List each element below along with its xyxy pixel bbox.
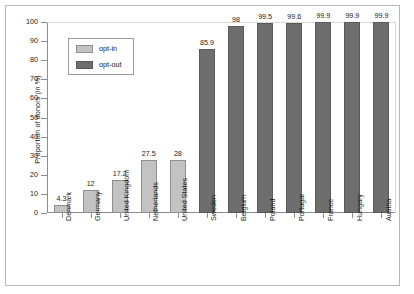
x-axis-label: United States <box>181 178 189 221</box>
x-axis-label: Germany <box>94 191 102 221</box>
x-axis-label: Hungary <box>356 194 364 221</box>
y-tick-label: 50 <box>0 114 38 121</box>
x-tick-mark <box>381 213 382 218</box>
x-tick-mark <box>294 213 295 218</box>
bar-value-label: 98 <box>220 16 252 24</box>
x-axis-label: Sweden <box>210 195 218 221</box>
plot-frame-right <box>395 22 396 213</box>
bar-austria <box>373 22 389 213</box>
bar-value-label: 28 <box>162 150 194 158</box>
legend-label-opt-out: opt-out <box>99 60 121 70</box>
y-tick-label: 20 <box>0 171 38 178</box>
bar-sweden <box>199 49 215 213</box>
y-tick-label: 80 <box>0 56 38 63</box>
bar-value-label: 12 <box>75 180 107 188</box>
bar-value-label: 99.9 <box>307 12 339 20</box>
x-tick-mark <box>120 213 121 218</box>
y-tick-label: 0 <box>0 209 38 216</box>
x-axis-label: Denmark <box>65 192 73 221</box>
bar-value-label: 99.9 <box>336 12 368 20</box>
legend-swatch-opt-out <box>76 61 93 69</box>
x-tick-mark <box>91 213 92 218</box>
x-tick-mark <box>207 213 208 218</box>
y-tick-label: 90 <box>0 37 38 44</box>
x-tick-mark <box>149 213 150 218</box>
legend-label-opt-in: opt-in <box>99 44 117 54</box>
chart-legend: opt-in opt-out <box>68 38 134 75</box>
x-axis-label: Austria <box>385 199 393 221</box>
x-axis-label: Portugal <box>298 194 306 221</box>
y-tick-label: 70 <box>0 75 38 82</box>
x-axis-label: Poland <box>269 199 277 221</box>
bar-chart-figure: Proportion of donors (in %) 010203040506… <box>0 0 414 294</box>
bar-value-label: 99.6 <box>278 13 310 21</box>
x-tick-mark <box>236 213 237 218</box>
x-tick-mark <box>62 213 63 218</box>
bar-value-label: 99.5 <box>249 13 281 21</box>
x-tick-mark <box>352 213 353 218</box>
y-tick-label: 100 <box>0 18 38 25</box>
bar-belgium <box>228 26 244 213</box>
bar-value-label: 99.9 <box>365 12 397 20</box>
x-tick-mark <box>178 213 179 218</box>
y-tick-mark <box>41 213 47 214</box>
y-tick-label: 40 <box>0 133 38 140</box>
y-tick-label: 60 <box>0 94 38 101</box>
legend-swatch-opt-in <box>76 45 93 53</box>
x-tick-mark <box>323 213 324 218</box>
x-axis-label: Netherlands <box>152 182 160 221</box>
bar-portugal <box>286 23 302 213</box>
x-tick-mark <box>265 213 266 218</box>
bar-hungary <box>344 22 360 213</box>
x-axis-label: United Kingdom <box>123 170 131 221</box>
y-tick-label: 30 <box>0 152 38 159</box>
x-axis-label: Belgium <box>240 195 248 221</box>
x-axis-label: France <box>327 199 335 221</box>
bar-france <box>315 22 331 213</box>
y-tick-label: 10 <box>0 190 38 197</box>
bar-poland <box>257 23 273 213</box>
bar-value-label: 85.9 <box>191 39 223 47</box>
bar-value-label: 27.5 <box>133 150 165 158</box>
